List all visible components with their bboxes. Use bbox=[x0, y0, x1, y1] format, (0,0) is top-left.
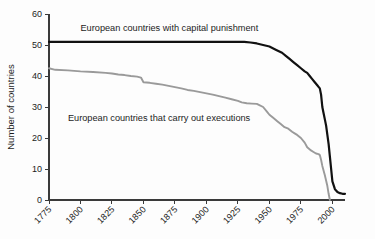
y-axis-title: Number of countries bbox=[5, 64, 16, 150]
x-tick-label: 1950 bbox=[253, 204, 274, 225]
y-tick-label: 10 bbox=[32, 164, 42, 174]
x-tick-label: 1850 bbox=[127, 204, 148, 225]
series-label-1: European countries that carry out execut… bbox=[68, 113, 251, 123]
chart-container: 0102030405060 17751800182518501875190019… bbox=[0, 0, 375, 239]
series-line-1 bbox=[49, 68, 330, 200]
y-tick-label: 50 bbox=[32, 40, 42, 50]
x-tick-label: 1975 bbox=[284, 204, 305, 225]
x-tick-label: 1900 bbox=[190, 204, 211, 225]
y-tick-label: 20 bbox=[32, 133, 42, 143]
x-tick-label: 1925 bbox=[221, 204, 242, 225]
x-tick-label: 2000 bbox=[316, 204, 337, 225]
x-tick-label: 1800 bbox=[64, 204, 85, 225]
x-axis-ticks: 1775180018251850187519001925195019752000 bbox=[32, 200, 337, 226]
x-tick-label: 1775 bbox=[32, 204, 53, 225]
x-tick-label: 1825 bbox=[95, 204, 116, 225]
y-tick-label: 60 bbox=[32, 9, 42, 19]
x-axis-group: 1775180018251850187519001925195019752000 bbox=[32, 200, 345, 226]
y-tick-label: 0 bbox=[37, 195, 42, 205]
y-tick-label: 40 bbox=[32, 71, 42, 81]
y-axis-ticks: 0102030405060 bbox=[32, 9, 49, 205]
y-tick-label: 30 bbox=[32, 102, 42, 112]
x-tick-label: 1875 bbox=[158, 204, 179, 225]
line-chart: 0102030405060 17751800182518501875190019… bbox=[0, 0, 375, 239]
series-label-0: European countries with capital punishme… bbox=[80, 23, 258, 33]
y-axis-group: 0102030405060 bbox=[32, 9, 49, 205]
